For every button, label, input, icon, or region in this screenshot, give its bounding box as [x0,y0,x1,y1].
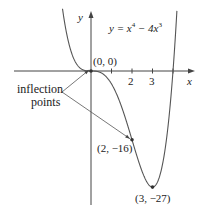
chart: y x y = x4 − 4x3 2 3 (0, 0) (2, −16) (3,… [0,0,200,217]
plot-area [0,0,200,217]
point-label-origin: (0, 0) [93,56,117,67]
annotation-points: points [31,96,60,108]
function-curve [63,9,177,187]
y-axis-arrow-icon [89,11,94,18]
annotation-inflection: inflection [17,83,63,95]
arrowhead-icon-1 [125,135,130,139]
annotation-arrow-1 [62,92,130,139]
point-label-inflection-2: (2, −16) [97,143,133,154]
x-tick-label-2: 2 [128,76,134,87]
annotation-arrow-0 [62,70,89,92]
x-axis-arrow-icon [188,69,195,74]
point-label-minimum: (3, −27) [135,193,171,204]
y-axis-label: y [78,12,83,23]
x-tick-label-3: 3 [149,76,155,87]
x-axis-label: x [187,76,192,87]
data-point-2 [151,185,155,189]
equation-label: y = x4 − 4x3 [109,22,162,34]
data-point-0 [89,69,93,73]
